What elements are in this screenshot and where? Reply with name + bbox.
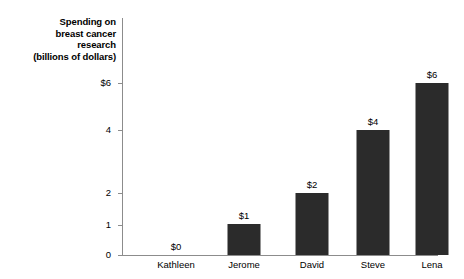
x-axis-line	[122, 255, 438, 256]
bar-chart: Spending on breast cancer research (bill…	[0, 0, 464, 279]
y-axis-tick-label: 2	[106, 188, 111, 198]
bar-value-label: $0	[171, 242, 182, 252]
chart-title-line-2: breast cancer	[8, 28, 116, 40]
x-axis-category-label: Lena	[421, 259, 442, 270]
bar-group-kathleen: $0 Kathleen	[144, 18, 208, 255]
chart-title-line-3: research	[8, 39, 116, 51]
bar-value-label: $4	[368, 117, 379, 127]
bar-value-label: $2	[307, 180, 318, 190]
bar-david	[296, 193, 329, 255]
x-axis-category-label: Kathleen	[157, 259, 195, 270]
y-axis-tick-label: 4	[106, 125, 111, 135]
bar-group-lena: $6 Lena	[400, 18, 464, 255]
y-axis-tick-label: 0	[106, 250, 111, 260]
bar-steve	[357, 130, 390, 255]
bar-value-label: $6	[427, 70, 438, 80]
y-axis-tick-label: $6	[100, 78, 111, 88]
bar-lena	[416, 83, 449, 255]
y-axis-tick: 0	[118, 255, 123, 256]
x-axis-category-label: Jerome	[228, 259, 260, 270]
bar-value-label: $1	[239, 211, 250, 221]
y-axis-line	[122, 18, 123, 256]
chart-title: Spending on breast cancer research (bill…	[8, 16, 116, 62]
bar-group-steve: $4 Steve	[341, 18, 405, 255]
bar-group-david: $2 David	[280, 18, 344, 255]
chart-title-line-4: (billions of dollars)	[8, 51, 116, 63]
x-axis-category-label: David	[300, 259, 324, 270]
y-axis-tick: 2	[118, 193, 123, 194]
y-axis-tick: 4	[118, 130, 123, 131]
y-axis-tick: $6	[118, 83, 123, 84]
bar-jerome	[228, 224, 261, 255]
y-axis-tick-label: 1	[106, 220, 111, 230]
x-axis-category-label: Steve	[361, 259, 385, 270]
y-axis-tick: 1	[118, 225, 123, 226]
chart-title-line-1: Spending on	[8, 16, 116, 28]
bar-group-jerome: $1 Jerome	[212, 18, 276, 255]
plot-area: 0 1 2 4 $6 $0 Kathleen $1 Jerome $2 Davi…	[122, 18, 438, 256]
